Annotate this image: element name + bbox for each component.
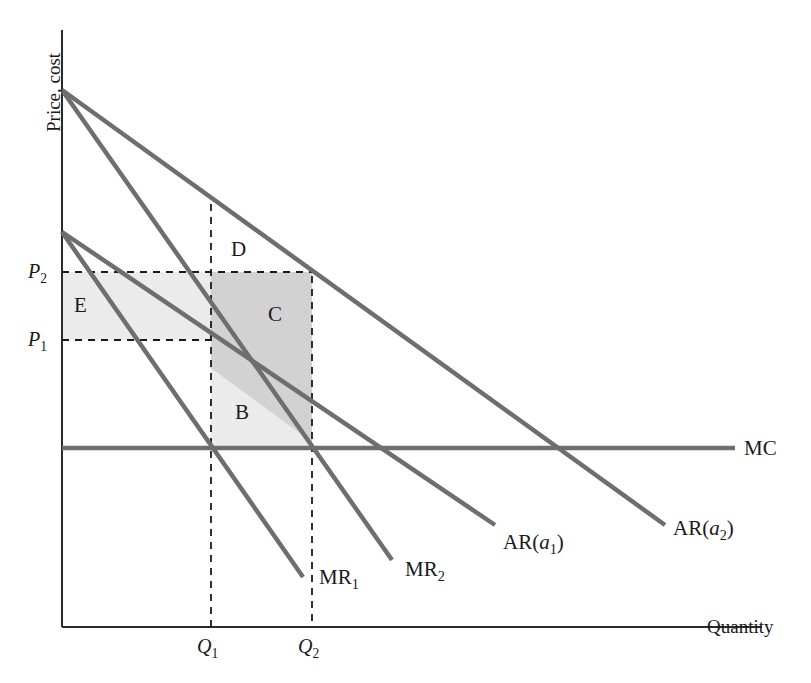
y-axis-label: Price, cost: [44, 53, 63, 132]
region-label-e: E: [74, 295, 87, 316]
tick-p1-sub: 1: [40, 339, 47, 354]
ar-a1-curve-label: AR(a1): [503, 532, 564, 556]
tick-p2-base: P: [28, 260, 40, 282]
mr-2-label-base: MR: [405, 557, 438, 581]
mc-curve-label: MC: [744, 438, 777, 459]
tick-label-p2: P2: [28, 261, 47, 286]
tick-label-q1: Q1: [197, 636, 218, 661]
ar-a2-label-var: a: [709, 516, 720, 540]
economics-diagram: Price, cost Quantity P2 P1 Q1 Q2 B C D E…: [0, 0, 811, 683]
ar-a1-label-close: ): [557, 530, 564, 554]
ar-a1-label-sub: 1: [550, 541, 557, 557]
mr-1-label-sub: 1: [352, 576, 359, 592]
region-label-d: D: [231, 239, 246, 260]
tick-q1-base: Q: [197, 635, 211, 657]
tick-p1-base: P: [28, 328, 40, 350]
mr-1-label-base: MR: [319, 565, 352, 589]
ar-a2-curve-label: AR(a2): [673, 518, 734, 542]
tick-q1-sub: 1: [211, 646, 218, 661]
tick-q2-base: Q: [298, 635, 312, 657]
tick-q2-sub: 2: [312, 646, 319, 661]
mr-1-curve-label: MR1: [319, 567, 359, 591]
region-label-c: C: [268, 304, 282, 325]
tick-label-p1: P1: [28, 329, 47, 354]
mr-2-curve-label: MR2: [405, 559, 445, 583]
region-e-lower-fill: [62, 340, 211, 448]
ar-a2-label-close: ): [727, 516, 734, 540]
mr-2-label-sub: 2: [438, 568, 445, 584]
tick-label-q2: Q2: [298, 636, 319, 661]
ar-a1-label-base: AR(: [503, 530, 539, 554]
region-label-b: B: [235, 402, 249, 423]
ar-a2-label-base: AR(: [673, 516, 709, 540]
ar-a1-label-var: a: [539, 530, 550, 554]
x-axis-label: Quantity: [707, 617, 774, 636]
ar-a2-label-sub: 2: [720, 527, 727, 543]
tick-p2-sub: 2: [40, 271, 47, 286]
